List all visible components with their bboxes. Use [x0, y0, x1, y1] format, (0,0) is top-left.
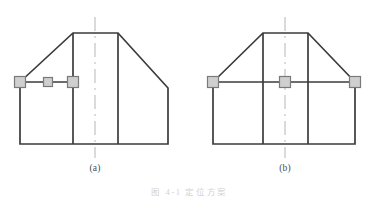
figure-a-sublabel: (a)	[75, 163, 115, 173]
figure-b-marker-right	[350, 77, 361, 88]
figure-b-outline	[213, 33, 355, 144]
figure-b-sublabel: (b)	[265, 163, 305, 173]
figure-caption: 图 4-1 定位方案	[0, 186, 379, 197]
figure-b-group	[208, 17, 361, 158]
technical-drawing-canvas	[0, 0, 379, 197]
figure-a-outline	[20, 33, 168, 144]
figure-b-marker-middle	[280, 77, 291, 88]
figure-b-marker-left	[208, 77, 219, 88]
drawing-page: (a) (b) 图 4-1 定位方案	[0, 0, 379, 197]
figure-a-group	[15, 17, 169, 158]
figure-a-marker-right	[68, 77, 79, 88]
figure-a-marker-middle	[44, 78, 53, 87]
figure-a-marker-left	[15, 77, 26, 88]
